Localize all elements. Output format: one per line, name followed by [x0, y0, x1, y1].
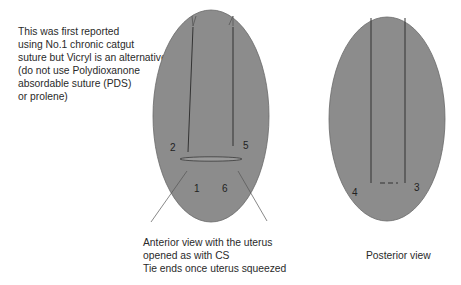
point-label-5: 5: [243, 140, 249, 151]
point-label-6: 6: [222, 183, 228, 194]
point-label-4: 4: [352, 187, 358, 198]
posterior-view-caption: Posterior view: [366, 249, 431, 262]
posterior-view: 4 3: [329, 17, 445, 221]
posterior-uterus-shape: [329, 17, 445, 221]
anterior-uterus-shape: [153, 10, 269, 222]
anterior-view: 2 5 1 6: [151, 10, 269, 222]
incision-icon: [180, 157, 242, 161]
caption-line: Tie ends once uterus squeezed: [143, 262, 286, 275]
point-label-2: 2: [170, 142, 176, 153]
anterior-view-caption: Anterior view with the uterus opened as …: [143, 236, 286, 275]
point-label-3: 3: [414, 182, 420, 193]
caption-line: Anterior view with the uterus: [143, 236, 286, 249]
caption-line: opened as with CS: [143, 249, 286, 262]
point-label-1: 1: [194, 183, 200, 194]
